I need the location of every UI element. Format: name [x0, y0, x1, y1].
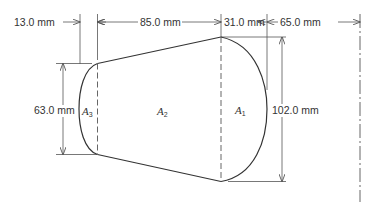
dim-label-31: 31.0 mm	[224, 16, 265, 28]
dim-label-65: 65.0 mm	[280, 16, 321, 28]
vertical-dimensions	[63, 37, 282, 182]
a2-bottom-edge	[98, 155, 222, 182]
area-label-a3: A3	[81, 105, 93, 118]
a2-top-edge	[98, 37, 222, 64]
dim-label-85: 85.0 mm	[140, 16, 181, 28]
area-label-a1: A1	[234, 104, 246, 117]
dim-label-102: 102.0 mm	[272, 104, 319, 116]
dimension-drawing: 13.0 mm 85.0 mm 31.0 mm 65.0 mm 63.0 mm …	[0, 0, 376, 202]
dim-label-13: 13.0 mm	[14, 16, 55, 28]
area-label-a2: A2	[156, 105, 168, 118]
dim-label-63: 63.0 mm	[34, 104, 75, 116]
extension-lines	[56, 14, 286, 182]
